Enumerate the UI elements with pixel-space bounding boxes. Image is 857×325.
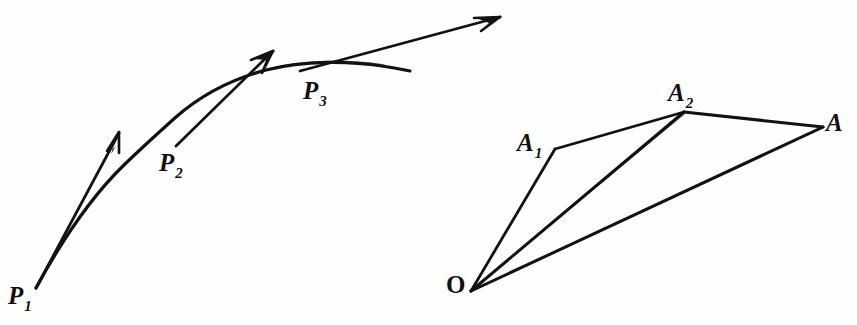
point-label-A2-sub: 2 bbox=[686, 95, 694, 111]
point-label-P1-base: P bbox=[8, 282, 23, 309]
figure-vector-graphics bbox=[0, 0, 857, 325]
point-label-O-base: O bbox=[446, 271, 465, 298]
segment-O-A2-shade bbox=[473, 114, 684, 289]
tangent-vector-2 bbox=[176, 50, 274, 146]
tangent-vector-3-shaft bbox=[300, 17, 500, 71]
trajectory-curve bbox=[36, 62, 410, 288]
point-label-A-base: A bbox=[826, 109, 843, 136]
figure-canvas: P1 P2 P3 O A1 A2 A bbox=[0, 0, 857, 325]
point-label-A2: A2 bbox=[668, 80, 692, 105]
trajectory-curve-shade bbox=[38, 61, 384, 286]
point-label-A1-base: A bbox=[517, 129, 534, 156]
tangent-vector-1 bbox=[36, 131, 119, 288]
point-label-A1: A1 bbox=[517, 130, 541, 155]
tangent-vector-3 bbox=[300, 16, 502, 71]
point-label-P2-base: P bbox=[159, 149, 174, 176]
tangent-vector-1-shaft bbox=[36, 133, 119, 288]
point-label-P3-base: P bbox=[303, 77, 318, 104]
point-label-P2-sub: 2 bbox=[175, 165, 183, 181]
point-label-A1-sub: 1 bbox=[535, 145, 543, 161]
tangent-vector-2-shaft bbox=[176, 51, 273, 146]
point-label-P3: P3 bbox=[303, 78, 326, 103]
point-label-P1-sub: 1 bbox=[24, 298, 32, 314]
segment-A2-A bbox=[684, 112, 823, 127]
segment-O-A1 bbox=[471, 149, 555, 291]
point-label-O: O bbox=[446, 272, 465, 297]
point-label-P3-sub: 3 bbox=[319, 93, 327, 109]
left-diagram-group bbox=[36, 16, 502, 288]
point-label-A: A bbox=[826, 110, 843, 135]
point-label-A2-base: A bbox=[668, 79, 685, 106]
point-label-P1: P1 bbox=[8, 283, 31, 308]
point-label-P2: P2 bbox=[159, 150, 182, 175]
